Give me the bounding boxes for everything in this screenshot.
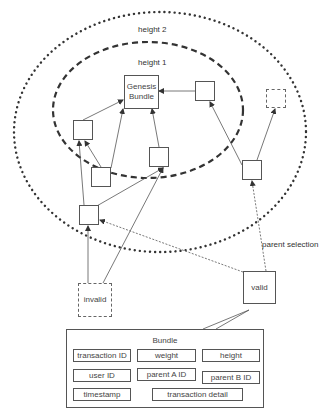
genesis-bundle-node: Genesis Bundle bbox=[124, 75, 159, 109]
genesis-label-line1: Genesis bbox=[127, 82, 156, 92]
genesis-label-line2: Bundle bbox=[129, 92, 154, 102]
height-1-label: height 1 bbox=[138, 59, 166, 67]
bundle-node-right-top bbox=[195, 81, 215, 101]
bundle-structure-title: Bundle bbox=[67, 336, 263, 345]
field-parent-a-id: parent A ID bbox=[137, 368, 196, 381]
invalid-bundle-node: invalid bbox=[78, 283, 112, 317]
bundle-node-pending bbox=[266, 89, 286, 108]
callout-pointer bbox=[203, 310, 249, 329]
field-transaction-id: transaction ID bbox=[73, 349, 131, 362]
parent-selection-label: parent selection bbox=[262, 241, 318, 249]
field-weight: weight bbox=[137, 349, 196, 362]
field-parent-b-id: parent B ID bbox=[202, 371, 260, 384]
valid-bundle-node: valid bbox=[243, 271, 276, 304]
bundle-node-mid-low bbox=[91, 167, 111, 187]
bundle-node-bottom-left bbox=[79, 205, 99, 225]
bundle-node-center bbox=[149, 147, 169, 167]
field-transaction-detail: transaction detail bbox=[152, 388, 243, 401]
bundle-node-left bbox=[73, 120, 93, 140]
field-timestamp: timestamp bbox=[73, 388, 131, 401]
edges bbox=[79, 91, 275, 283]
parent-selection-edges bbox=[100, 181, 266, 272]
field-user-id: user ID bbox=[73, 369, 131, 382]
height-2-label: height 2 bbox=[138, 26, 166, 34]
field-height: height bbox=[202, 349, 260, 362]
bundle-structure-callout: Bundle transaction ID weight height user… bbox=[66, 329, 264, 408]
bundle-node-right-low bbox=[242, 160, 262, 180]
